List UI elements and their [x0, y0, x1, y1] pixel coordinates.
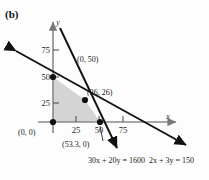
point-origin: [50, 119, 56, 125]
point-53-3-0: [97, 119, 103, 125]
y-tick-label-75: 75: [42, 45, 51, 55]
point-0-50: [50, 74, 56, 80]
x-axis-name: x: [165, 112, 170, 121]
y-tick-label-50: 50: [42, 72, 51, 82]
point-36-26: [82, 97, 88, 103]
label-intersection: (36, 26): [87, 88, 113, 97]
label-origin: (0, 0): [18, 128, 36, 137]
label-y-intercept: (0, 50): [77, 55, 99, 64]
equation-label-line2: 2x + 3y = 150: [149, 156, 194, 165]
y-axis-name: y: [55, 18, 60, 27]
x-tick-label-50: 50: [95, 125, 104, 135]
x-tick-label-75: 75: [119, 125, 128, 135]
x-tick-label-25: 25: [72, 125, 81, 135]
label-x-intercept: (53.3, 0): [62, 140, 90, 149]
figure-panel: (b) y x 75 50 25 25 50 75: [0, 0, 209, 180]
equation-label-line1: 30x + 20y = 1600: [88, 156, 145, 165]
y-tick-label-25: 25: [42, 98, 51, 108]
plot-area: y x 75 50 25 25 50 75 (0, 0) (0, 50) (36…: [0, 0, 209, 180]
